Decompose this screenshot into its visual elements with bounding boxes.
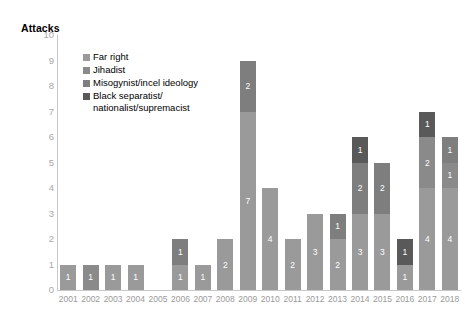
- bar-column-2008[interactable]: 2: [217, 239, 233, 290]
- legend-item-0[interactable]: Far right: [83, 51, 273, 63]
- bar-segment-value: 1: [330, 222, 346, 231]
- y-tick-8: 8: [32, 81, 54, 91]
- bar-column-2016[interactable]: 11: [397, 239, 413, 290]
- bar-segment[interactable]: 2: [374, 163, 390, 214]
- stacked-bar-chart: Attacks 109876543210 1111111227423121232…: [0, 0, 467, 322]
- y-tick-7: 7: [32, 107, 54, 117]
- x-axis-line: [57, 290, 461, 291]
- bar-segment-value: 1: [442, 145, 458, 154]
- bar-column-2015[interactable]: 23: [374, 163, 390, 291]
- bar-segment-value: 2: [352, 184, 368, 193]
- bar-column-2006[interactable]: 11: [172, 239, 188, 290]
- bar-column-2017[interactable]: 124: [419, 112, 435, 291]
- y-tick-9: 9: [32, 56, 54, 66]
- bar-segment-value: 1: [172, 247, 188, 256]
- legend-swatch-icon: [83, 54, 90, 61]
- bar-segment[interactable]: 1: [442, 137, 458, 163]
- bar-segment[interactable]: 1: [172, 265, 188, 291]
- bar-segment-value: 3: [352, 247, 368, 256]
- legend-label: Far right: [93, 51, 128, 63]
- bar-column-2004[interactable]: 1: [128, 265, 144, 291]
- legend-label: Misogynist/incel ideology: [93, 77, 198, 89]
- legend-item-3[interactable]: Black separatist/ nationalist/supremacis…: [83, 90, 273, 113]
- bar-segment[interactable]: 1: [352, 137, 368, 163]
- bar-segment-value: 2: [330, 260, 346, 269]
- y-axis-tick-labels: 109876543210: [28, 35, 54, 291]
- legend-label: Black separatist/ nationalist/supremacis…: [93, 90, 190, 113]
- bar-segment-value: 1: [83, 273, 99, 282]
- y-tick-5: 5: [32, 158, 54, 168]
- y-tick-4: 4: [32, 183, 54, 193]
- bar-segment-value: 1: [195, 273, 211, 282]
- bar-segment[interactable]: 1: [105, 265, 121, 291]
- bar-segment-value: 1: [442, 171, 458, 180]
- bar-segment-value: 2: [285, 260, 301, 269]
- bar-segment[interactable]: 1: [128, 265, 144, 291]
- bar-segment-value: 1: [419, 120, 435, 129]
- y-tick-0: 0: [32, 285, 54, 295]
- bar-segment-value: 4: [442, 235, 458, 244]
- y-tick-2: 2: [32, 234, 54, 244]
- bar-segment[interactable]: 1: [60, 265, 76, 291]
- bar-segment-value: 2: [374, 184, 390, 193]
- x-axis-tick-labels: 2001200220032004200520062007200820092010…: [57, 294, 461, 310]
- bar-segment[interactable]: 1: [330, 214, 346, 240]
- bar-segment[interactable]: 4: [262, 188, 278, 290]
- bar-segment[interactable]: 2: [419, 137, 435, 188]
- bar-segment-value: 2: [419, 158, 435, 167]
- bar-segment-value: 1: [128, 273, 144, 282]
- bar-segment-value: 3: [374, 247, 390, 256]
- bar-segment[interactable]: 1: [397, 239, 413, 265]
- bar-segment[interactable]: 1: [195, 265, 211, 291]
- bar-column-2010[interactable]: 4: [262, 188, 278, 290]
- bar-segment-value: 1: [352, 145, 368, 154]
- bar-segment[interactable]: 2: [352, 163, 368, 214]
- legend-item-1[interactable]: Jihadist: [83, 64, 273, 76]
- legend-swatch-icon: [83, 93, 90, 100]
- bar-column-2007[interactable]: 1: [195, 265, 211, 291]
- y-tick-6: 6: [32, 132, 54, 142]
- bar-segment-value: 4: [419, 235, 435, 244]
- bar-segment[interactable]: 1: [397, 265, 413, 291]
- bar-segment[interactable]: 4: [442, 188, 458, 290]
- bar-segment[interactable]: 1: [442, 163, 458, 189]
- bar-column-2018[interactable]: 114: [442, 137, 458, 290]
- bar-segment[interactable]: 3: [352, 214, 368, 291]
- bar-segment[interactable]: 3: [307, 214, 323, 291]
- bar-segment[interactable]: 7: [240, 112, 256, 291]
- y-tick-3: 3: [32, 209, 54, 219]
- bar-segment[interactable]: 2: [285, 239, 301, 290]
- legend-swatch-icon: [83, 67, 90, 74]
- bar-column-2002[interactable]: 1: [83, 265, 99, 291]
- bar-segment[interactable]: 2: [217, 239, 233, 290]
- bar-column-2001[interactable]: 1: [60, 265, 76, 291]
- y-tick-1: 1: [32, 260, 54, 270]
- bar-segment-value: 3: [307, 247, 323, 256]
- bar-column-2013[interactable]: 12: [330, 214, 346, 291]
- bar-segment[interactable]: 1: [419, 112, 435, 138]
- bar-segment-value: 1: [105, 273, 121, 282]
- legend-swatch-icon: [83, 80, 90, 87]
- x-tick-2018: 2018: [435, 294, 465, 305]
- legend-item-2[interactable]: Misogynist/incel ideology: [83, 77, 273, 89]
- bar-segment[interactable]: 4: [419, 188, 435, 290]
- bar-segment-value: 1: [60, 273, 76, 282]
- legend-label: Jihadist: [93, 64, 125, 76]
- bar-segment-value: 1: [397, 247, 413, 256]
- bar-column-2003[interactable]: 1: [105, 265, 121, 291]
- bar-segment-value: 2: [217, 260, 233, 269]
- bar-column-2012[interactable]: 3: [307, 214, 323, 291]
- bar-segment-value: 1: [172, 273, 188, 282]
- y-tick-10: 10: [32, 30, 54, 40]
- bar-segment[interactable]: 1: [172, 239, 188, 265]
- bar-segment-value: 1: [397, 273, 413, 282]
- bar-segment-value: 4: [262, 235, 278, 244]
- bar-segment[interactable]: 2: [330, 239, 346, 290]
- bar-column-2014[interactable]: 123: [352, 137, 368, 290]
- chart-legend: Far rightJihadistMisogynist/incel ideolo…: [83, 51, 273, 114]
- bar-column-2011[interactable]: 2: [285, 239, 301, 290]
- bar-segment[interactable]: 3: [374, 214, 390, 291]
- bar-segment[interactable]: 1: [83, 265, 99, 291]
- bar-segment-value: 7: [240, 196, 256, 205]
